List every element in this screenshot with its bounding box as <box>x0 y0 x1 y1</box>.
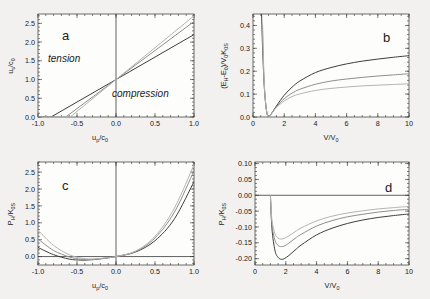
panel-d-frame <box>255 162 409 265</box>
figure-panel-grid: -1.0-0.50.00.51.00.00.51.01.52.02.5 a te… <box>0 0 430 299</box>
panel-a-svg: -1.0-0.50.00.51.00.00.51.01.52.02.5 a te… <box>0 0 215 149</box>
panel-b-svg: 02468100.00.10.20.30.4 b V/V0 (EH-E0)/V0… <box>215 0 430 149</box>
panel-b-ytick: 0.3 <box>240 44 250 53</box>
panel-d-xtick: 2 <box>284 267 288 276</box>
panel-c-ytick: 1.0 <box>25 218 35 227</box>
panel-b-ytick: 0.2 <box>240 67 250 76</box>
panel-d-xtick: 8 <box>376 267 380 276</box>
panel-b-xtick: 8 <box>376 119 380 128</box>
panel-d-ytick: 0.05 <box>238 175 252 184</box>
panel-a-ytick: 0.0 <box>25 113 35 122</box>
panel-d-ytick: -0.10 <box>236 223 252 232</box>
panel-a-ytick: 0.5 <box>25 94 35 103</box>
panel-a-tension-label: tension <box>48 53 81 64</box>
panel-c-ytick: 0.5 <box>25 235 35 244</box>
panel-d: 02468100.100.050.00-0.05-0.10-0.15-0.20 … <box>215 150 430 299</box>
panel-a-letter: a <box>62 28 70 43</box>
panel-d-ytick: -0.20 <box>236 254 252 263</box>
panel-a-ylabel: us/c0 <box>6 58 16 74</box>
panel-c-ytick: 0.0 <box>25 252 35 261</box>
panel-b-xlabel: V/V0 <box>324 133 339 143</box>
panel-a-compression-label: compression <box>112 88 169 99</box>
panel-c-xtick: -1.0 <box>32 267 44 276</box>
panel-c-xtick: 1.0 <box>189 267 199 276</box>
panel-c: -1.0-0.50.00.51.00.00.51.01.52.02.5 c up… <box>0 150 215 299</box>
panel-d-xtick: 6 <box>345 267 349 276</box>
panel-a-ytick: 1.0 <box>25 75 35 84</box>
panel-c-xtick: -0.5 <box>71 267 83 276</box>
panel-c-xtick: 0.5 <box>150 267 160 276</box>
panel-b-xtick: 6 <box>345 119 349 128</box>
panel-a-xlabel: up/c0 <box>92 133 108 143</box>
panel-c-svg: -1.0-0.50.00.51.00.00.51.01.52.02.5 c up… <box>0 150 215 299</box>
panel-a-xtick: 1.0 <box>189 119 199 128</box>
panel-b-ylabel: (EH-E0)/V0K0S <box>219 43 229 89</box>
panel-c-xtick: 0.0 <box>111 267 121 276</box>
panel-c-ytick: 2.0 <box>25 185 35 194</box>
panel-d-xtick: 10 <box>405 267 413 276</box>
panel-d-ylabel: PH/K0S <box>217 202 227 225</box>
panel-d-ytick: 0.10 <box>238 159 252 168</box>
panel-b-ytick: 0.4 <box>240 21 250 30</box>
panel-a-xtick: 0.0 <box>111 119 121 128</box>
panel-b-xtick: 2 <box>282 119 286 128</box>
panel-d-xtick: 4 <box>315 267 319 276</box>
panel-a: -1.0-0.50.00.51.00.00.51.01.52.02.5 a te… <box>0 0 215 149</box>
panel-c-ylabel: PH/K0S <box>6 202 16 225</box>
panel-b-ytick: 0.1 <box>240 90 250 99</box>
panel-c-xlabel: up/c0 <box>92 281 108 291</box>
panel-c-letter: c <box>62 178 69 193</box>
panel-b-xtick: 10 <box>405 119 413 128</box>
panel-d-letter: d <box>385 180 392 195</box>
panel-d-xtick: 0 <box>253 267 257 276</box>
panel-b-xtick: 4 <box>313 119 317 128</box>
panel-d-ytick: 0.00 <box>238 191 252 200</box>
panel-c-ytick: 1.5 <box>25 202 35 211</box>
panel-b-letter: b <box>383 30 390 45</box>
panel-d-ytick: -0.05 <box>236 207 252 216</box>
panel-d-ytick: -0.15 <box>236 238 252 247</box>
panel-a-ytick: 1.5 <box>25 56 35 65</box>
panel-c-ytick: 2.5 <box>25 168 35 177</box>
panel-a-xtick: 0.5 <box>150 119 160 128</box>
panel-d-xlabel: V/V0 <box>325 281 340 291</box>
panel-a-ytick: 2.5 <box>25 19 35 28</box>
panel-b: 02468100.00.10.20.30.4 b V/V0 (EH-E0)/V0… <box>215 0 430 149</box>
panel-a-xtick: -0.5 <box>71 119 83 128</box>
panel-b-ytick: 0.0 <box>240 113 250 122</box>
panel-a-ytick: 2.0 <box>25 38 35 47</box>
panel-d-svg: 02468100.100.050.00-0.05-0.10-0.15-0.20 … <box>215 150 430 299</box>
panel-b-xtick: 0 <box>251 119 255 128</box>
